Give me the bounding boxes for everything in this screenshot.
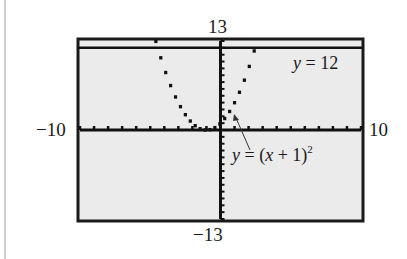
parabola-label: y = (x + 1)2 xyxy=(232,144,313,164)
var-y: y xyxy=(232,145,240,165)
line-eq-rest: = 12 xyxy=(301,53,338,73)
eq-rest: + 1) xyxy=(273,145,307,165)
ymin-label: −13 xyxy=(193,225,223,244)
eq-part: = ( xyxy=(240,145,265,165)
var-x: x xyxy=(265,145,273,165)
xmin-label: −10 xyxy=(36,120,66,139)
ymax-label: 13 xyxy=(208,17,227,36)
xmax-label: 10 xyxy=(369,120,388,139)
horizontal-line-label: y = 12 xyxy=(293,54,338,72)
var-y: y xyxy=(293,53,301,73)
exponent: 2 xyxy=(307,143,313,155)
